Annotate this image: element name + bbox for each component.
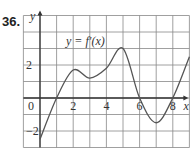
svg-text:4: 4 (103, 99, 109, 113)
derivative-graph: 02468−22xy y = f′(x) (0, 0, 191, 155)
axes (23, 11, 188, 148)
function-annotation: y = f′(x) (65, 34, 105, 48)
svg-text:2: 2 (70, 99, 76, 113)
tick-labels: 02468−22xy (26, 9, 189, 139)
curve-f-prime (40, 48, 189, 140)
svg-text:6: 6 (137, 99, 143, 113)
svg-text:0: 0 (28, 99, 34, 113)
svg-text:2: 2 (26, 58, 32, 72)
grid (23, 16, 189, 148)
svg-text:8: 8 (170, 99, 176, 113)
svg-text:y: y (29, 9, 36, 23)
svg-text:−2: −2 (26, 124, 39, 138)
svg-text:x: x (182, 99, 189, 113)
